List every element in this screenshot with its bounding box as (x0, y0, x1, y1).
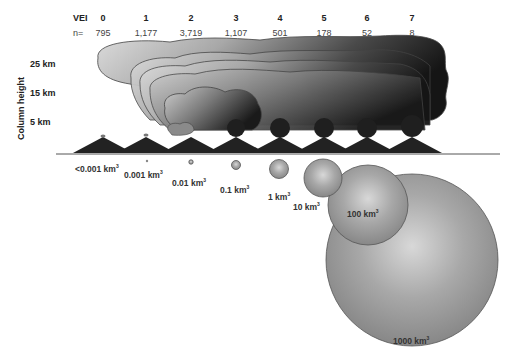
volume-label-4: 1 km3 (268, 191, 290, 202)
tick-15km: 15 km (30, 88, 56, 98)
sphere-0.001 (146, 160, 148, 162)
vent-puff-1 (144, 134, 149, 137)
small-puff (168, 122, 194, 135)
sphere-10 (304, 159, 342, 197)
vent-puff-0 (101, 135, 106, 138)
sphere-0.01 (189, 160, 193, 164)
tick-25km: 25 km (30, 59, 56, 69)
sphere-0.1 (232, 161, 241, 170)
vei-diagram (0, 0, 515, 360)
column-height-axis-title: Column height (16, 77, 26, 140)
volume-label-2: 0.01 km3 (172, 177, 206, 188)
eruption-clouds (98, 35, 449, 130)
volume-label-1: 0.001 km3 (124, 169, 163, 180)
volume-label-6: 100 km3 (347, 208, 379, 219)
volume-label-5: 10 km3 (293, 201, 320, 212)
volume-label-3: 0.1 km3 (220, 184, 249, 195)
volcano-cones (73, 137, 442, 153)
volume-label-0: <0.001 km3 (75, 163, 119, 174)
tick-5km: 5 km (30, 117, 51, 127)
volume-label-7: 1000 km3 (393, 335, 429, 346)
sphere-1 (270, 160, 289, 179)
